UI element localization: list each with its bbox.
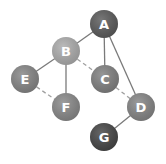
node-a: A	[90, 10, 118, 38]
node-label: B	[61, 44, 71, 59]
nodes-layer: ABCDEFG	[11, 10, 155, 151]
node-b: B	[52, 37, 80, 65]
node-label: G	[99, 130, 110, 145]
node-e: E	[11, 65, 39, 93]
edges-layer	[25, 24, 141, 137]
node-label: C	[100, 72, 110, 87]
node-d: D	[127, 93, 155, 121]
node-c: C	[91, 65, 119, 93]
node-f: F	[52, 93, 80, 121]
node-label: D	[136, 100, 147, 115]
node-label: E	[21, 72, 30, 87]
node-label: A	[99, 17, 109, 32]
node-g: G	[90, 123, 118, 151]
node-label: F	[62, 100, 71, 115]
graph-diagram: ABCDEFG	[0, 0, 166, 164]
